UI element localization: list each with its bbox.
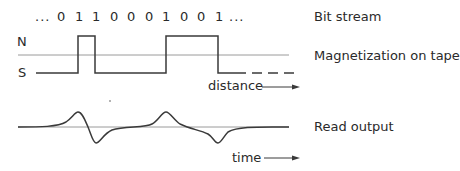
distance-arrowhead bbox=[292, 85, 300, 90]
bit-4: 0 bbox=[127, 10, 135, 23]
time-label: time bbox=[232, 151, 261, 164]
stray-dot bbox=[109, 100, 111, 102]
north-label: N bbox=[17, 35, 27, 48]
bit-7: 0 bbox=[180, 10, 188, 23]
bit-stream-suffix: ... bbox=[229, 10, 244, 23]
bit-1: 1 bbox=[75, 10, 83, 23]
south-label: S bbox=[18, 66, 26, 79]
bit-2: 1 bbox=[92, 10, 100, 23]
legend-magnetization: Magnetization on tape bbox=[314, 49, 460, 62]
bit-8: 0 bbox=[197, 10, 205, 23]
bit-6: 1 bbox=[162, 10, 170, 23]
time-arrowhead bbox=[292, 156, 300, 161]
distance-label: distance bbox=[208, 79, 263, 92]
bit-5: 0 bbox=[145, 10, 153, 23]
legend-bit-stream: Bit stream bbox=[314, 10, 381, 23]
legend-read-output: Read output bbox=[314, 120, 394, 133]
bit-stream-prefix: ... bbox=[35, 10, 50, 23]
bit-stream: ... 0 1 1 0 0 0 1 0 0 1 ... bbox=[35, 10, 305, 26]
bit-9: 1 bbox=[215, 10, 223, 23]
bit-3: 0 bbox=[110, 10, 118, 23]
bit-0: 0 bbox=[57, 10, 65, 23]
